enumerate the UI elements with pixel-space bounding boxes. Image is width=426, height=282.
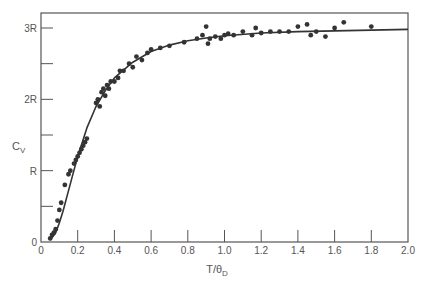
x-tick-label: 1.4 (291, 245, 305, 256)
data-point (130, 65, 135, 70)
data-point (101, 86, 106, 91)
data-point (84, 136, 89, 141)
data-point (134, 54, 139, 59)
data-point (127, 61, 132, 66)
x-tick-label: 1.8 (364, 245, 378, 256)
heat-capacity-chart: 00.20.40.60.81.01.21.41.61.82.00R2R3R T/… (0, 0, 426, 282)
data-point (59, 200, 64, 205)
data-point (116, 76, 121, 81)
data-point (369, 24, 374, 29)
data-point (268, 29, 273, 34)
data-point (121, 68, 126, 73)
x-tick-label: 0.4 (107, 245, 121, 256)
debye-curve (50, 29, 408, 240)
data-point (206, 41, 211, 46)
data-point (332, 26, 337, 31)
data-point (305, 22, 310, 27)
x-tick-label: 0.6 (144, 245, 158, 256)
data-point (253, 26, 258, 31)
data-point (55, 218, 60, 223)
plot-frame (41, 13, 408, 242)
data-point (167, 43, 172, 48)
y-tick-label: 0 (31, 237, 37, 248)
data-point (207, 36, 212, 41)
data-point (158, 46, 163, 51)
data-points (48, 20, 374, 241)
data-point (57, 208, 62, 213)
data-point (53, 227, 58, 232)
y-axis-label: CV (12, 140, 26, 155)
x-tick-label: 1.0 (218, 245, 232, 256)
data-point (226, 31, 231, 36)
data-point (341, 20, 346, 25)
data-point (296, 24, 301, 29)
y-tick-label: 3R (24, 23, 37, 34)
data-point (218, 36, 223, 41)
data-point (250, 33, 255, 38)
data-point (213, 34, 218, 39)
x-tick-label: 0.8 (181, 245, 195, 256)
data-point (231, 33, 236, 38)
y-tick-label: 2R (24, 94, 37, 105)
data-point (97, 104, 102, 109)
data-point (149, 47, 154, 52)
data-point (103, 93, 108, 98)
data-point (95, 97, 100, 102)
data-point (68, 168, 73, 173)
data-point (200, 33, 205, 38)
data-point (145, 51, 150, 56)
x-tick-label: 2.0 (401, 245, 415, 256)
data-point (308, 33, 313, 38)
data-point (112, 79, 117, 84)
x-tick-label: 1.2 (254, 245, 268, 256)
data-point (323, 34, 328, 39)
data-point (204, 24, 209, 29)
data-point (277, 29, 282, 34)
data-point (140, 58, 145, 63)
x-tick-label: 0.2 (71, 245, 85, 256)
x-tick-label: 1.6 (328, 245, 342, 256)
x-axis-label: T/θD (206, 263, 228, 278)
y-tick-label: R (30, 166, 37, 177)
data-point (286, 29, 291, 34)
data-point (62, 183, 67, 188)
data-point (195, 36, 200, 41)
data-point (182, 40, 187, 45)
data-point (314, 29, 319, 34)
data-point (259, 31, 264, 36)
data-point (106, 86, 111, 91)
x-tick-label: 0 (38, 245, 44, 256)
data-point (240, 29, 245, 34)
